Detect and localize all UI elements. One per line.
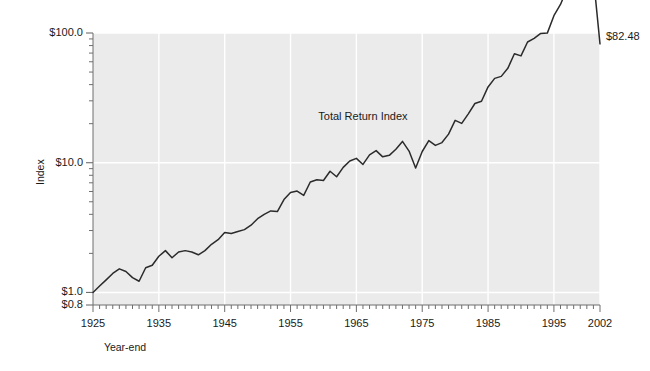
x-axis-tick-label: 1995 [542,317,566,329]
x-axis-tick-label: 1955 [278,317,302,329]
y-axis-tick-label: $10.0 [55,156,83,168]
x-axis-title: Year-end [104,341,146,353]
y-axis-tick-label: $0.8 [62,298,83,310]
plot-background [93,33,600,305]
x-axis-tick-label: 1925 [81,317,105,329]
chart-figure: $0.8$1.0$10.0$100.0192519351945195519651… [0,0,650,371]
x-axis-tick-label: 1985 [476,317,500,329]
endpoint-value-label: $82.48 [606,30,640,42]
y-axis-title: Index [34,159,46,185]
x-axis-tick-label: 1975 [410,317,434,329]
x-axis-tick-label: 1965 [344,317,368,329]
y-axis-tick-label: $1.0 [62,285,83,297]
chart-canvas [0,0,650,371]
series-inline-label: Total Return Index [318,110,407,122]
x-axis-tick-label: 1935 [147,317,171,329]
x-axis-tick-label: 2002 [588,317,612,329]
x-axis-tick-label: 1945 [212,317,236,329]
y-axis-tick-label: $100.0 [49,26,83,38]
